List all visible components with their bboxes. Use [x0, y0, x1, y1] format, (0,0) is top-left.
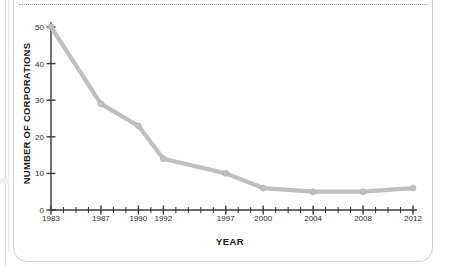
- data-point-marker: [223, 171, 229, 177]
- data-point-marker: [260, 185, 266, 191]
- x-axis-tick-label: 1997: [206, 214, 246, 223]
- data-point-marker: [410, 185, 416, 191]
- chart-axes: [51, 22, 417, 210]
- data-point-marker: [360, 189, 366, 195]
- chart-canvas: [0, 0, 451, 266]
- data-point-marker: [160, 156, 166, 162]
- data-point-marker: [48, 24, 54, 30]
- x-axis-tick-label: 1987: [81, 214, 121, 223]
- x-axis-tick-label: 2012: [393, 214, 433, 223]
- data-point-markers: [48, 24, 416, 195]
- data-point-marker: [310, 189, 316, 195]
- x-axis-tick-label: 2004: [293, 214, 333, 223]
- line-chart: NUMBER OF CORPORATIONS 01020304050 19831…: [0, 0, 451, 266]
- data-point-marker: [135, 123, 141, 129]
- x-axis-tick-label: 2000: [243, 214, 283, 223]
- x-axis-tick-label: 1983: [31, 214, 71, 223]
- x-axis-title: YEAR: [50, 236, 410, 247]
- data-point-marker: [98, 101, 104, 107]
- x-axis-tick-label: 1992: [143, 214, 183, 223]
- x-axis-tick-label: 2008: [343, 214, 383, 223]
- data-series-line: [51, 27, 413, 192]
